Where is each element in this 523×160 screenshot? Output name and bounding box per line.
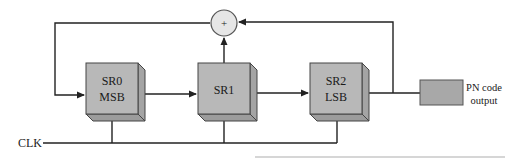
sr0-label: SR0 (102, 74, 123, 88)
sr0-sublabel: MSB (99, 90, 124, 104)
pn-output-box (420, 80, 463, 105)
sr2-sublabel: LSB (325, 90, 347, 104)
pn-output-label-line2: output (471, 95, 498, 106)
clock-label: CLK (18, 136, 42, 150)
register-sr2: SR2 LSB (310, 63, 369, 121)
adder-symbol: + (221, 17, 227, 29)
modulo-2-adder: + (211, 10, 237, 36)
sr1-label: SR1 (214, 83, 235, 97)
pn-output-label-line1: PN code (466, 82, 502, 93)
sr2-label: SR2 (326, 74, 347, 88)
clock-line (43, 121, 337, 143)
lfsr-diagram: CLK + SR0 MSB SR1 SR2 LSB PN code output (0, 0, 523, 160)
register-sr0: SR0 MSB (86, 63, 145, 121)
register-sr1: SR1 (198, 63, 257, 121)
